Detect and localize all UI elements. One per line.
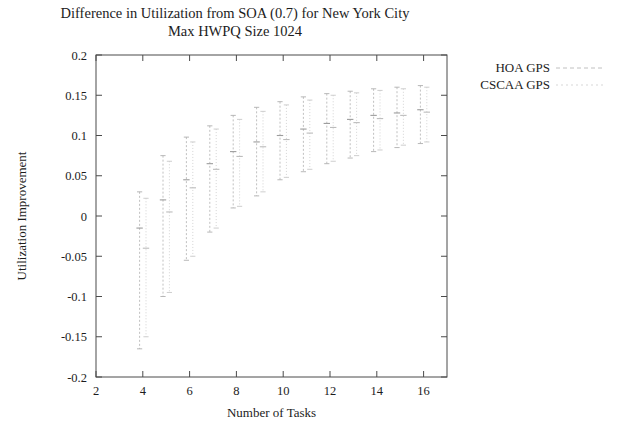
- x-tick-label-7: 16: [417, 384, 430, 398]
- x-tick-label-5: 12: [324, 384, 337, 398]
- x-tick-label-3: 8: [233, 384, 239, 398]
- legend-label-0: HOA GPS: [495, 60, 550, 75]
- plot-frame: [96, 55, 447, 377]
- y-tick-label-4: 0: [81, 210, 87, 224]
- generated-chart-graphics: -0.2-0.15-0.1-0.0500.050.10.150.22468101…: [14, 49, 604, 421]
- x-tick-label-0: 2: [93, 384, 99, 398]
- y-tick-label-3: -0.05: [61, 250, 87, 264]
- series-hoa-gps: [136, 86, 423, 349]
- y-tick-label-7: 0.15: [65, 89, 87, 103]
- x-tick-label-1: 4: [140, 384, 147, 398]
- plot-area: -0.2-0.15-0.1-0.0500.050.10.150.22468101…: [0, 0, 618, 424]
- y-tick-label-2: -0.1: [67, 290, 87, 304]
- y-tick-label-5: 0.05: [65, 169, 87, 183]
- x-tick-label-6: 14: [371, 384, 384, 398]
- series-cscaa-gps: [143, 87, 430, 337]
- y-axis-title: Utilization Improvement: [14, 151, 29, 280]
- y-tick-label-0: -0.2: [67, 371, 87, 385]
- x-tick-label-2: 6: [186, 384, 192, 398]
- x-tick-label-4: 10: [277, 384, 290, 398]
- x-axis-title: Number of Tasks: [227, 405, 316, 420]
- y-tick-label-8: 0.2: [71, 49, 87, 63]
- legend-label-1: CSCAA GPS: [480, 77, 550, 92]
- y-tick-label-6: 0.1: [71, 129, 87, 143]
- y-tick-label-1: -0.15: [61, 330, 87, 344]
- chart-root: Difference in Utilization from SOA (0.7)…: [0, 0, 618, 424]
